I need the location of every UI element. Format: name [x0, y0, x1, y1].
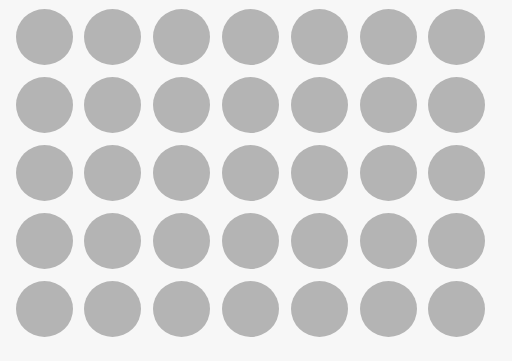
grid-dot — [84, 145, 141, 201]
grid-dot — [153, 77, 210, 133]
grid-dot — [16, 213, 73, 269]
grid-dot — [291, 281, 348, 337]
grid-dot — [360, 77, 417, 133]
grid-dot — [222, 145, 279, 201]
grid-dot — [222, 281, 279, 337]
grid-dot — [84, 213, 141, 269]
grid-dot — [16, 145, 73, 201]
grid-dot — [222, 9, 279, 65]
grid-dot — [360, 9, 417, 65]
grid-dot — [153, 145, 210, 201]
grid-dot — [428, 77, 485, 133]
grid-dot — [16, 77, 73, 133]
grid-dot — [291, 145, 348, 201]
grid-dot — [153, 213, 210, 269]
grid-dot — [428, 213, 485, 269]
grid-dot — [428, 9, 485, 65]
dot-grid — [0, 0, 512, 361]
grid-dot — [153, 9, 210, 65]
grid-dot — [428, 145, 485, 201]
grid-dot — [360, 281, 417, 337]
grid-dot — [291, 9, 348, 65]
grid-dot — [16, 281, 73, 337]
grid-dot — [360, 145, 417, 201]
grid-dot — [291, 213, 348, 269]
grid-dot — [428, 281, 485, 337]
grid-dot — [16, 9, 73, 65]
grid-dot — [84, 9, 141, 65]
grid-dot — [291, 77, 348, 133]
grid-dot — [84, 77, 141, 133]
grid-dot — [222, 213, 279, 269]
grid-dot — [153, 281, 210, 337]
grid-dot — [360, 213, 417, 269]
grid-dot — [222, 77, 279, 133]
grid-dot — [84, 281, 141, 337]
